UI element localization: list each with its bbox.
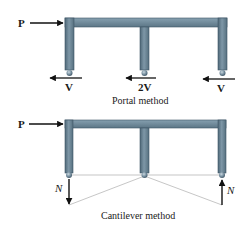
cantilever-distribution-line-left (69, 176, 145, 205)
portal-reaction-left-label: V (65, 81, 73, 93)
portal-method-figure: P V 2V V Portal method (18, 17, 235, 106)
portal-column-right (218, 18, 227, 70)
cantilever-pin-right (219, 172, 225, 178)
frame-analysis-diagram: P V 2V V Portal method P (0, 0, 248, 230)
portal-column-left (65, 18, 74, 70)
cantilever-axial-right-label: N (226, 184, 235, 196)
portal-pin-left (67, 70, 73, 76)
portal-load-label: P (18, 17, 25, 29)
cantilever-column-right (218, 120, 226, 173)
cantilever-method-figure: P N N Cantilever method (18, 118, 235, 221)
portal-caption: Portal method (112, 95, 168, 106)
cantilever-caption: Cantilever method (101, 210, 175, 221)
cantilever-pin-middle (142, 172, 148, 178)
cantilever-pin-left (66, 172, 72, 178)
portal-pin-right (220, 70, 226, 76)
cantilever-column-middle (140, 128, 149, 173)
cantilever-axial-left-label: N (54, 182, 63, 194)
portal-column-middle (140, 27, 149, 70)
portal-pin-middle (142, 70, 148, 76)
cantilever-load-label: P (18, 118, 25, 130)
cantilever-distribution-line-right (145, 176, 223, 205)
portal-beam (65, 18, 227, 27)
cantilever-beam (65, 120, 226, 128)
portal-reaction-right-label: V (217, 82, 225, 94)
portal-reaction-middle-label: 2V (138, 81, 152, 93)
cantilever-column-left (65, 120, 73, 173)
